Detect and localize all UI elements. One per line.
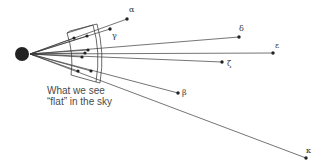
observer-earth-icon	[15, 47, 29, 61]
caption-line-2: “flat” in the sky	[47, 96, 112, 107]
sky-projection-diagram: αγδεζβκ What we see “flat” in the sky	[0, 0, 324, 165]
projected-point	[76, 69, 79, 72]
diagram-canvas: αγδεζβκ	[0, 0, 324, 165]
star-dot-icon	[125, 17, 128, 20]
projected-point	[89, 69, 92, 72]
projected-point	[86, 48, 89, 51]
star-dot-icon	[237, 35, 240, 38]
star-label: ε	[275, 41, 279, 50]
star-dot-icon	[176, 91, 179, 94]
projected-point	[80, 55, 83, 58]
star-dot-icon	[304, 156, 307, 159]
caption-line-1: What we see	[47, 85, 112, 96]
star-label: κ	[306, 146, 311, 155]
projected-point	[85, 34, 88, 37]
caption: What we see “flat” in the sky	[47, 85, 112, 107]
star-label: γ	[112, 31, 117, 40]
star-dot-icon	[271, 51, 274, 54]
star-label: β	[182, 88, 187, 97]
sight-line	[30, 37, 239, 54]
star-label: α	[129, 5, 135, 14]
star-dot-icon	[220, 60, 223, 63]
projected-point	[83, 51, 86, 54]
sight-line	[30, 54, 222, 62]
star-label: δ	[239, 24, 244, 33]
sight-line	[30, 29, 110, 54]
projected-point	[72, 36, 75, 39]
star-label: ζ	[227, 59, 232, 68]
